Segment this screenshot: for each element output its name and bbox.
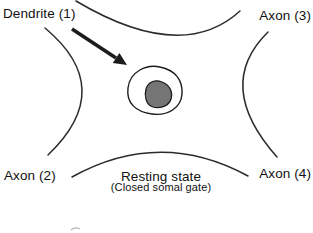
top-boundary-arc [76, 1, 240, 35]
axon-2-label: Axon (2) [4, 169, 56, 183]
axon-3-label: Axon (3) [259, 9, 311, 23]
diagram-canvas [0, 0, 313, 233]
caption-subtitle: (Closed somal gate) [111, 182, 211, 193]
axon-4-label: Axon (4) [259, 167, 311, 181]
cropped-artifact [71, 228, 80, 230]
dendrite-1-label: Dendrite (1) [3, 7, 75, 21]
nucleus [145, 81, 171, 108]
left-boundary-arc [45, 28, 82, 155]
neuron-resting-state-diagram: Dendrite (1) Axon (3) Axon (2) Axon (4) … [0, 0, 313, 233]
arrow-shaft [72, 29, 116, 58]
right-boundary-arc [243, 32, 277, 157]
